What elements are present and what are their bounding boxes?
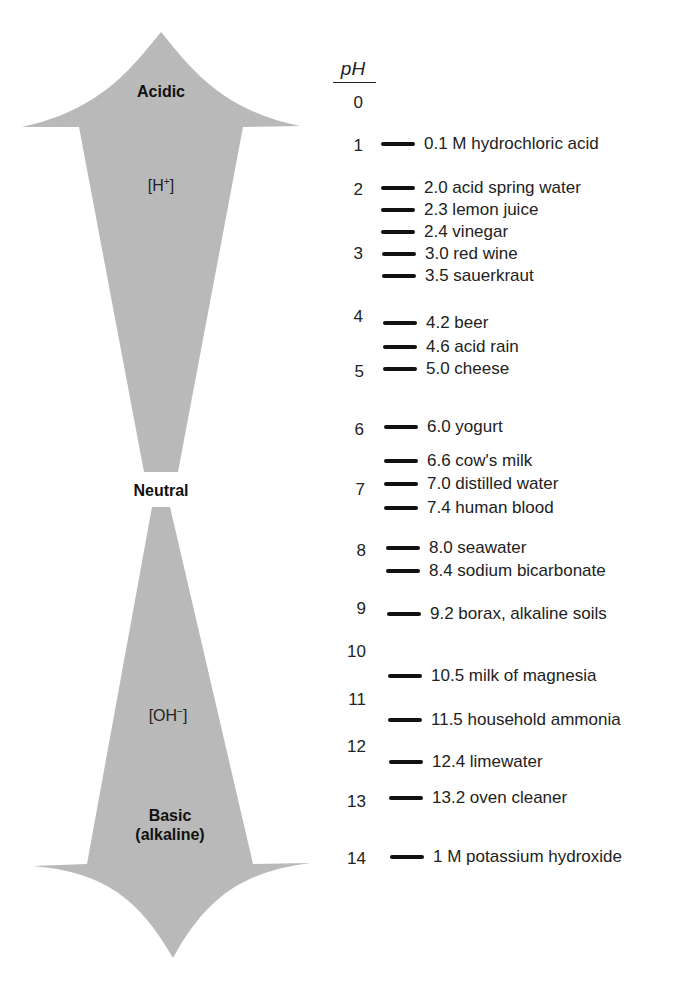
marker-dash [383,345,417,349]
acidic-label: Acidic [111,82,211,101]
ph-item: 4.2 beer [383,313,488,333]
ph-item: 8.0 seawater [386,538,526,558]
marker-dash [388,718,422,722]
marker-dash [381,186,415,190]
ph-tick: 2 [323,180,363,200]
marker-dash [384,506,418,510]
ph-tick: 3 [323,244,363,264]
ph-item: 11.5 household ammonia [388,710,621,730]
marker-dash [384,425,418,429]
marker-dash [389,796,423,800]
ph-item: 3.0 red wine [382,244,518,264]
ph-item: 6.0 yogurt [384,417,503,437]
ph-axis-title: pH [333,58,373,80]
hydrogen-ion-label: [H+] [131,176,191,195]
ph-tick: 12 [326,737,366,757]
basic-arrow-icon [33,507,310,958]
ph-item: 1 M potassium hydroxide [390,847,622,867]
marker-dash [381,208,415,212]
marker-dash [381,230,415,234]
ph-tick: 9 [326,599,366,619]
ph-tick: 5 [324,362,364,382]
ph-item: 9.2 borax, alkaline soils [387,604,607,624]
ph-tick: 10 [326,642,366,662]
ph-tick: 0 [323,93,363,113]
ph-item: 2.0 acid spring water [381,178,581,198]
marker-dash [382,252,416,256]
ph-tick: 14 [326,849,366,869]
ph-tick: 6 [324,420,364,440]
ph-item: 7.4 human blood [384,498,554,518]
ph-item: 4.6 acid rain [383,337,519,357]
marker-dash [383,321,417,325]
marker-dash [384,482,418,486]
basic-label: Basic (alkaline) [110,806,230,844]
marker-dash [387,612,421,616]
ph-axis-rule [333,82,376,83]
ph-tick: 11 [326,690,366,710]
ph-item: 2.3 lemon juice [381,200,538,220]
ph-tick: 1 [323,136,363,156]
ph-item: 3.5 sauerkraut [382,266,534,286]
ph-tick: 7 [325,480,365,500]
hydroxide-ion-label: [OH−] [133,706,203,725]
marker-dash [386,546,420,550]
ph-item: 2.4 vinegar [381,222,508,242]
ph-item: 5.0 cheese [383,359,509,379]
ph-item: 8.4 sodium bicarbonate [386,561,606,581]
marker-dash [382,274,416,278]
neutral-label: Neutral [111,481,211,500]
marker-dash [390,855,424,859]
ph-item: 13.2 oven cleaner [389,788,567,808]
marker-dash [389,760,423,764]
marker-dash [384,459,418,463]
marker-dash [383,367,417,371]
ph-item: 0.1 M hydrochloric acid [381,134,599,154]
ph-item: 10.5 milk of magnesia [388,666,596,686]
marker-dash [386,569,420,573]
ph-item: 6.6 cow's milk [384,451,532,471]
ph-item: 12.4 limewater [389,752,543,772]
marker-dash [388,674,422,678]
ph-item: 7.0 distilled water [384,474,558,494]
marker-dash [381,142,415,146]
ph-tick: 13 [326,792,366,812]
ph-tick: 8 [326,541,366,561]
ph-tick: 4 [323,307,363,327]
